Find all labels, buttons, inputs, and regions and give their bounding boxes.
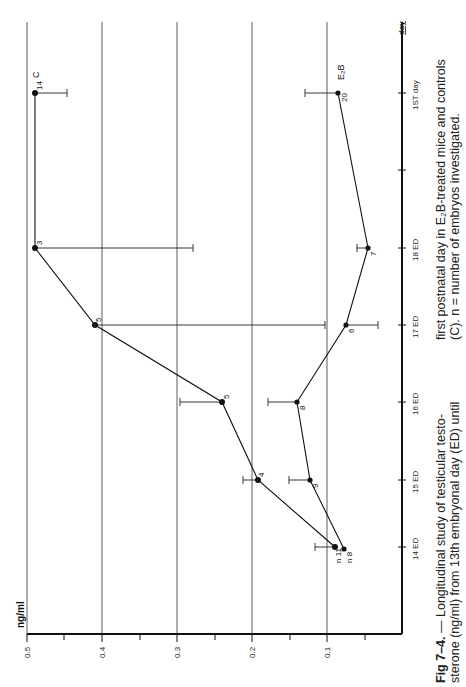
series-e2b [294,90,370,551]
n-label: 9 [311,483,320,488]
ytick-0.1: 0.1 [323,646,332,658]
n-label: 14 [35,81,44,90]
n-label: 6 [347,328,356,333]
unit-label: ng/ml [15,601,26,628]
testosterone-chart: 0.5 0.4 0.3 0.2 0.1 ng/ml 14 ED 15 ED 16… [0,0,466,687]
caption-line-1: Fig 7–4. — Longitudinal study of testicu… [434,414,448,683]
figure-caption: Fig 7–4. — Longitudinal study of testicu… [434,59,462,683]
caption-line-2: sterone (ng/ml) from 13th embryonal day … [448,402,462,683]
ytick-0.4: 0.4 [98,646,107,658]
series-c [32,90,338,550]
ytick-0.2: 0.2 [248,646,257,658]
n-label: n 11 [334,547,343,563]
n-label: 3 [35,240,44,245]
xtick-16ed: 16 ED [411,393,420,415]
series-label-c: C [31,71,41,78]
point-e2b-17ed [343,322,348,327]
xtick-15ed: 15 ED [411,471,420,493]
ytick-0.3: 0.3 [173,646,182,658]
xtick-17ed: 17 ED [411,316,420,338]
n-label: n 8 [345,551,354,563]
xtick-18ed: 18 ED [411,239,420,261]
n-label: 20 [340,93,349,102]
error-bars-e2b [268,89,378,484]
series-label-e2b: E₂B [336,65,346,81]
n-label: 7 [369,251,378,256]
ytick-0.5: 0.5 [23,646,32,658]
caption-line-3: first postnatal day in E₂B-treated mice … [434,59,448,340]
caption-fig-number: Fig 7–4. [434,636,448,683]
n-label: 4 [257,472,266,477]
value-axis [27,634,402,642]
n-label: 8 [298,405,307,410]
error-bars-c [35,89,335,551]
point-e2b-18ed [365,245,370,250]
xtick-labels: 14 ED 15 ED 16 ED 17 ED 18 ED 1ST day [411,80,420,560]
gridlines [27,22,327,634]
time-axis [398,22,406,634]
point-e2b-16ed [294,399,299,404]
point-e2b-15ed [307,477,312,482]
ytick-labels: 0.5 0.4 0.3 0.2 0.1 [23,646,332,658]
xtick-14ed: 14 ED [411,538,420,560]
n-label: 5 [222,394,231,399]
xtick-1st-day: 1ST day [411,80,420,110]
caption-line-1-text: — Longitudinal study of testicular testo… [434,414,448,636]
n-labels-e2b: n 8 9 8 6 7 20 [298,93,378,563]
axis-end-label-day: day [397,21,406,35]
n-label: 5 [94,317,103,322]
n-labels-c: n 11 4 5 5 3 14 [35,81,343,563]
caption-line-4: (C). n = number of embryos investigated. [448,113,462,340]
